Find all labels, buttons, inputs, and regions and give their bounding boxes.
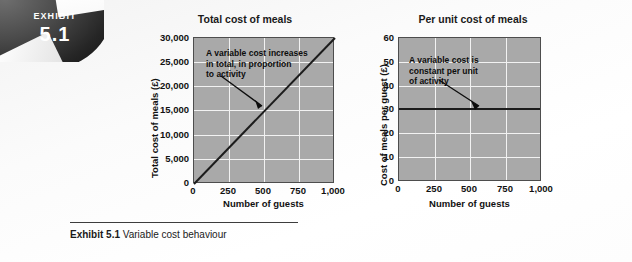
chart-2-xtick-250: 250 [417, 183, 451, 194]
badge-word-label: EXHIBIT [18, 11, 92, 22]
chart-2-x-axis-label: Number of guests [398, 198, 541, 209]
chart-2-ytick-60: 60 [372, 33, 394, 43]
chart-1-xtick-500: 500 [246, 185, 280, 196]
figure-caption-block: Exhibit 5.1 Variable cost behaviour [70, 222, 320, 240]
chart-1-xtick-250: 250 [211, 185, 245, 196]
figure-caption: Exhibit 5.1 Variable cost behaviour [70, 229, 320, 240]
chart-2-xtick-1000: 1,000 [524, 183, 558, 194]
chart-1-title: Total cost of meals [150, 13, 340, 25]
chart-2-xtick-500: 500 [452, 183, 486, 194]
chart-2-plot-area: A variable cost is constant per unit of … [398, 37, 541, 181]
chart-2-annotation-text: A variable cost is constant per unit of … [409, 55, 479, 87]
chart-1-y-axis-label: Total cost of meals (£) [149, 78, 160, 178]
chart-1-x-axis-label: Number of guests [193, 198, 334, 209]
badge-number-label: 5.1 [18, 23, 92, 45]
chart-1-ytick-25000: 25,000 [143, 57, 189, 67]
chart-1-annotation-text: A variable cost increases in total, in p… [206, 48, 308, 80]
caption-divider [70, 222, 298, 223]
chart-1-plot-area: A variable cost increases in total, in p… [193, 37, 334, 183]
chart-total-cost-of-meals: Total cost of meals 30,000 25,000 20,000… [140, 0, 370, 215]
chart-2-y-axis-label: Cost of meals per guest (£) [378, 64, 389, 186]
exhibit-badge: EXHIBIT 5.1 [0, 0, 104, 62]
chart-per-unit-cost-of-meals: Per unit cost of meals 60 50 40 30 20 10… [370, 0, 610, 215]
chart-1-xtick-750: 750 [281, 185, 315, 196]
chart-2-title: Per unit cost of meals [378, 13, 568, 25]
chart-1-xtick-1000: 1,000 [316, 185, 350, 196]
exhibit-figure: EXHIBIT 5.1 Total cost of meals 30,000 2… [0, 0, 632, 262]
chart-1-xtick-0: 0 [176, 185, 210, 196]
badge-text-group: EXHIBIT 5.1 [18, 11, 92, 45]
chart-2-xtick-750: 750 [488, 183, 522, 194]
chart-1-ytick-30000: 30,000 [143, 33, 189, 43]
caption-text: Variable cost behaviour [123, 229, 227, 240]
caption-label: Exhibit 5.1 [70, 229, 123, 240]
